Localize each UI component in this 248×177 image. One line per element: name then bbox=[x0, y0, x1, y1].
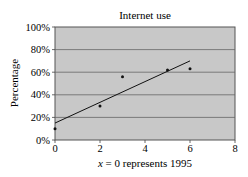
data-point bbox=[121, 75, 124, 78]
x-tick-label: 2 bbox=[97, 143, 102, 154]
data-point bbox=[189, 67, 192, 70]
y-tick-label: 0% bbox=[36, 135, 50, 146]
y-tick-label: 20% bbox=[31, 112, 51, 123]
x-tick-label: 8 bbox=[232, 143, 237, 154]
plot-area bbox=[55, 27, 235, 140]
y-tick-label: 60% bbox=[31, 67, 51, 78]
x-axis-label: x = 0 represents 1995 bbox=[97, 157, 193, 169]
y-tick-label: 80% bbox=[31, 44, 51, 55]
data-point bbox=[166, 68, 169, 71]
x-tick-label: 4 bbox=[142, 143, 148, 154]
data-point bbox=[99, 105, 102, 108]
x-tick-label: 0 bbox=[52, 143, 57, 154]
chart-title: Internet use bbox=[119, 9, 171, 21]
y-axis-label: Percentage bbox=[8, 59, 20, 107]
y-tick-label: 100% bbox=[26, 22, 51, 33]
x-axis-ticks: 02468 bbox=[52, 140, 237, 154]
internet-use-chart: Internet use 0%20%40%60%80%100% 02468 Pe… bbox=[0, 0, 248, 177]
x-tick-label: 6 bbox=[187, 143, 192, 154]
data-point bbox=[54, 127, 57, 130]
y-axis-ticks: 0%20%40%60%80%100% bbox=[26, 22, 56, 146]
y-tick-label: 40% bbox=[31, 89, 51, 100]
